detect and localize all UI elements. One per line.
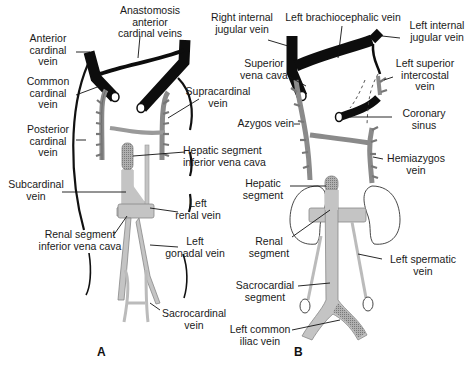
label-anterior-cardinal-vein: Anterior cardinal vein [18, 33, 78, 68]
label-coronary-sinus: Coronary sinus [394, 108, 454, 131]
label-renal-segment: Renal segment [246, 236, 292, 259]
label-left-spermatic-vein: Left spermatic vein [383, 254, 463, 277]
label-superior-vena-cava: Superior vena cava [236, 58, 292, 81]
label-hepatic-segment: Hepatic segment [238, 178, 288, 201]
label-left-brachiocephalic-vein: Left brachiocephalic vein [283, 12, 403, 24]
label-common-cardinal-vein: Common cardinal vein [18, 76, 78, 111]
panel-letter-b: B [294, 345, 303, 359]
label-azygos-vein: Azygos vein [230, 118, 294, 130]
panel-letter-a: A [97, 345, 106, 359]
label-subcardinal-vein: Subcardinal vein [6, 179, 66, 202]
label-renal-segment-ivc: Renal segment inferior vena cava [30, 229, 130, 252]
label-sacrocardinal-vein: Sacrocardinal vein [158, 308, 230, 331]
label-left-renal-vein: Left renal vein [168, 198, 228, 221]
label-left-superior-intercostal-vein: Left superior intercostal vein [390, 58, 460, 93]
label-hemiazygos-vein: Hemiazygos vein [384, 153, 448, 176]
label-right-internal-jugular-vein: Right internal jugular vein [206, 12, 278, 35]
label-anastomosis-anterior-cardinal-veins: Anastomosis anterior cardinal veins [100, 5, 200, 40]
label-left-common-iliac-vein: Left common iliac vein [228, 324, 292, 347]
label-sacrocardial-segment: Sacrocardial segment [232, 280, 298, 303]
label-left-internal-jugular-vein: Left internal jugular vein [404, 20, 470, 43]
label-left-gonadal-vein: Left gonadal vein [160, 236, 230, 259]
label-hepatic-segment-ivc: Hepatic segment inferior vena cava [183, 145, 266, 168]
panel-a-diagram [62, 36, 199, 322]
label-posterior-cardinal-vein: Posterior cardinal vein [18, 124, 78, 159]
label-supracardinal-vein: Supracardinal vein [183, 86, 253, 109]
